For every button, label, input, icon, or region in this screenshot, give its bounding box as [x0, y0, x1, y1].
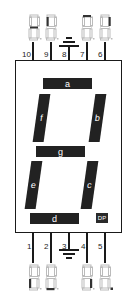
- ground-symbol-top-bar1: [66, 37, 72, 39]
- pin-number-4: 4: [81, 243, 85, 251]
- mini-digit-icon-pin2-d: [45, 264, 59, 292]
- mini-digit-icon-pin10-g: [28, 14, 42, 42]
- ground-symbol-bottom-bar3: [66, 257, 72, 259]
- mini-digit-icon-pin4-c: [81, 264, 95, 292]
- pin-number-7: 7: [80, 51, 84, 59]
- ground-symbol-bottom-bar2: [63, 253, 75, 255]
- mini-digit-icon-pin6-b: [99, 14, 113, 42]
- segment-a: a: [43, 78, 92, 89]
- pin-2-lead: [50, 233, 52, 263]
- segment-g: g: [36, 146, 85, 157]
- segment-f: f: [33, 94, 51, 142]
- mini-digit-icon-pin9-f: [45, 14, 59, 42]
- pin-9-lead: [50, 42, 52, 60]
- pin-5-lead: [104, 233, 106, 263]
- segment-d: d: [30, 213, 79, 224]
- pin-number-10: 10: [22, 51, 31, 59]
- segment-dp: DP: [96, 213, 108, 223]
- pin-3-lead: [68, 233, 70, 249]
- display-body: a f b g e c d DP: [15, 60, 122, 233]
- pin-number-1: 1: [27, 243, 31, 251]
- pin-number-2: 2: [44, 243, 48, 251]
- segment-b: b: [89, 94, 107, 142]
- mini-digit-icon-pin1-e: [28, 264, 42, 292]
- mini-digit-icon-pin5-dp: [99, 264, 113, 292]
- pin-6-lead: [104, 42, 106, 60]
- segment-e: e: [25, 161, 43, 209]
- pin-7-lead: [86, 42, 88, 60]
- pin-1-lead: [32, 233, 34, 263]
- pin-10-lead: [32, 42, 34, 60]
- pin-number-9: 9: [44, 51, 48, 59]
- pin-8-lead: [68, 45, 70, 60]
- pin-number-8: 8: [62, 51, 66, 59]
- pin-number-5: 5: [98, 243, 102, 251]
- pin-number-6: 6: [98, 51, 102, 59]
- ground-symbol-top-bar2: [63, 41, 75, 43]
- mini-digit-icon-pin7-a: [81, 14, 95, 42]
- pin-4-lead: [86, 233, 88, 263]
- ground-symbol-bottom-bar1: [59, 249, 79, 251]
- segment-c: c: [81, 161, 99, 209]
